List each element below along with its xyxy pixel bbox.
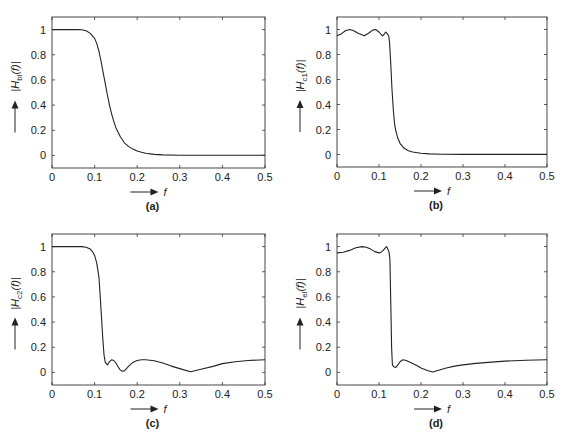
x-tick-label: 0.1 (371, 170, 386, 182)
x-tick-label: 0.2 (130, 388, 145, 400)
x-arrowhead-icon (151, 406, 159, 413)
panel-caption: (b) (429, 199, 443, 211)
x-tick-label: 0.5 (257, 388, 272, 400)
x-tick-label: 0.1 (371, 388, 386, 400)
y-tick-label: 1 (40, 24, 46, 36)
figure-canvas: 00.10.20.30.40.500.20.40.60.81f(a)|Hbl(f… (0, 0, 568, 443)
panel-a-butterworth: 00.10.20.30.40.500.20.40.60.81f(a)|Hbl(f… (9, 17, 273, 212)
y-tick-label: 0.6 (31, 291, 46, 303)
y-tick-label: 0.8 (31, 266, 46, 278)
y-tick-label: 0.4 (316, 316, 331, 328)
panel-d-elliptic: 00.10.20.30.40.500.20.40.60.81f(d)|Hel(f… (294, 234, 555, 429)
y-tick-label: 0.4 (31, 99, 46, 111)
y-tick-label: 0.8 (316, 266, 331, 278)
x-tick-label: 0.1 (87, 388, 102, 400)
x-tick-label: 0.3 (455, 170, 470, 182)
x-tick-label: 0 (49, 388, 55, 400)
x-tick-label: 0.4 (215, 388, 230, 400)
y-tick-label: 0 (40, 149, 46, 161)
x-tick-label: 0.3 (172, 171, 187, 183)
y-tick-label: 0.4 (31, 316, 46, 328)
y-arrowhead-icon (297, 318, 304, 326)
y-tick-label: 0 (40, 366, 46, 378)
y-tick-label: 0.8 (31, 49, 46, 61)
y-tick-label: 0.2 (316, 124, 331, 136)
y-tick-label: 0 (325, 366, 331, 378)
y-tick-label: 0.6 (316, 291, 331, 303)
y-arrowhead-icon (297, 100, 304, 108)
axes-frame (337, 17, 547, 167)
x-tick-label: 0.3 (455, 388, 470, 400)
y-axis-label: |Hc2(f)| (9, 277, 24, 310)
y-arrowhead-icon (12, 101, 19, 109)
x-tick-label: 0.5 (539, 170, 554, 182)
x-arrowhead-icon (434, 406, 442, 413)
x-tick-label: 0.2 (413, 388, 428, 400)
x-tick-label: 0.4 (497, 388, 512, 400)
panel-caption: (c) (146, 417, 160, 429)
axes-frame (52, 17, 265, 168)
x-tick-label: 0.5 (539, 388, 554, 400)
y-tick-label: 0.2 (316, 341, 331, 353)
panel-c-chebyshev-2: 00.10.20.30.40.500.20.40.60.81f(c)|Hc2(f… (9, 234, 273, 429)
x-tick-label: 0 (334, 170, 340, 182)
axes-frame (337, 234, 547, 385)
filter-response-figure: 00.10.20.30.40.500.20.40.60.81f(a)|Hbl(f… (0, 0, 568, 443)
x-tick-label: 0.2 (413, 170, 428, 182)
y-axis-label: |Hbl(f)| (9, 61, 24, 91)
y-tick-label: 1 (325, 24, 331, 36)
y-tick-label: 0.2 (31, 341, 46, 353)
x-tick-label: 0.4 (497, 170, 512, 182)
x-axis-label: f (164, 403, 168, 415)
magnitude-response-curve (52, 247, 265, 372)
panel-caption: (a) (146, 200, 160, 212)
y-tick-label: 1 (325, 241, 331, 253)
x-arrowhead-icon (151, 189, 159, 196)
y-arrowhead-icon (12, 318, 19, 326)
magnitude-response-curve (52, 30, 265, 156)
y-tick-label: 0 (325, 149, 331, 161)
magnitude-response-curve (337, 247, 547, 372)
y-tick-label: 1 (40, 241, 46, 253)
x-axis-label: f (447, 403, 451, 415)
panel-b-chebyshev-1: 00.10.20.30.40.500.20.40.60.81f(b)|Hc1(f… (294, 17, 555, 211)
x-tick-label: 0.5 (257, 171, 272, 183)
x-tick-label: 0 (334, 388, 340, 400)
x-tick-label: 0.1 (87, 171, 102, 183)
x-axis-label: f (164, 186, 168, 198)
magnitude-response-curve (337, 30, 547, 155)
y-axis-label: |Hel(f)| (294, 278, 309, 308)
x-tick-label: 0.3 (172, 388, 187, 400)
x-tick-label: 0.2 (130, 171, 145, 183)
y-tick-label: 0.8 (316, 49, 331, 61)
x-arrowhead-icon (434, 188, 442, 195)
y-axis-label: |Hc1(f)| (294, 60, 309, 93)
y-tick-label: 0.4 (316, 99, 331, 111)
x-tick-label: 0.4 (215, 171, 230, 183)
y-tick-label: 0.2 (31, 124, 46, 136)
y-tick-label: 0.6 (316, 74, 331, 86)
x-axis-label: f (447, 185, 451, 197)
panel-caption: (d) (429, 417, 443, 429)
y-tick-label: 0.6 (31, 74, 46, 86)
x-tick-label: 0 (49, 171, 55, 183)
